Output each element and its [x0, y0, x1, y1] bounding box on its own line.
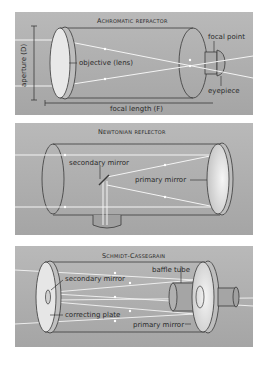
primary-mirror-label: primary mirror	[133, 321, 184, 329]
aperture-label: aperture (D)	[20, 44, 28, 87]
correcting-plate-label: correcting plate	[65, 311, 120, 319]
newtonian-reflector-panel: Newtonian reflector secondary mirror pri…	[15, 123, 253, 235]
panel-title: Newtonian reflector	[98, 128, 166, 136]
refractor-diagram	[15, 12, 253, 115]
panel-title: Achromatic refractor	[97, 17, 168, 25]
panel-title: Schmidt-Cassegrain	[102, 252, 165, 260]
achromatic-refractor-panel: Achromatic refractor aperture (D) object…	[15, 12, 253, 115]
focal-point-label: focal point	[208, 33, 245, 41]
newtonian-diagram	[15, 123, 253, 235]
baffle-tube-label: baffle tube	[152, 266, 190, 274]
objective-label: objective (lens)	[79, 59, 133, 67]
schmidt-cassegrain-diagram	[15, 246, 253, 347]
primary-mirror-label: primary mirror	[135, 176, 186, 184]
eyepiece-label: eyepiece	[208, 87, 240, 95]
secondary-mirror-label: secondary mirror	[65, 275, 125, 283]
focal-length-label: focal length (F)	[110, 105, 163, 113]
schmidt-cassegrain-panel: Schmidt-Cassegrain baffle tube secondary…	[15, 246, 253, 347]
secondary-mirror-label: secondary mirror	[69, 159, 129, 167]
